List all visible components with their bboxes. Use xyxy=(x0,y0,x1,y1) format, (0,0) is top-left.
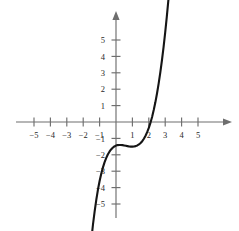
x-tick-label: 3 xyxy=(163,130,167,140)
y-tick-label: −5 xyxy=(96,199,105,209)
x-axis-arrow-icon xyxy=(223,118,232,125)
y-tick-label: −1 xyxy=(96,134,105,144)
y-tick-label: 4 xyxy=(101,52,106,62)
y-tick-label: −2 xyxy=(96,150,105,160)
x-tick-label: −4 xyxy=(46,130,56,140)
x-tick-label: 5 xyxy=(196,130,200,140)
cubic-function-graph: −5 −4 −3 −2 −1 1 2 3 4 5 −5 −4 xyxy=(0,0,239,231)
y-tick-label: 2 xyxy=(101,84,105,94)
x-tick-label: 4 xyxy=(179,130,184,140)
graph-canvas: −5 −4 −3 −2 −1 1 2 3 4 5 −5 −4 xyxy=(0,0,239,231)
y-tick-label: 5 xyxy=(101,35,105,45)
y-axis-arrow-icon xyxy=(112,11,119,20)
x-tick-label: −2 xyxy=(79,130,88,140)
y-tick-label: 3 xyxy=(101,68,105,78)
y-tick-label: 1 xyxy=(101,101,105,111)
x-tick-label: −3 xyxy=(62,130,71,140)
x-tick-label: −5 xyxy=(29,130,38,140)
x-tick-label: 1 xyxy=(130,130,134,140)
cubic-curve xyxy=(87,0,172,231)
